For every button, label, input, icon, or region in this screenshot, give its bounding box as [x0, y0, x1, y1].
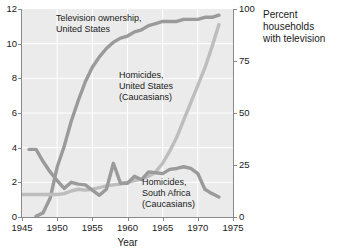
y-axis-right-tick	[234, 217, 237, 218]
annotation-south-africa-homicides: Homicides, South Africa (Caucasians)	[142, 177, 195, 210]
y-axis-right-title-line2: with television	[263, 33, 345, 45]
y-axis-right-tick-label: 100	[239, 4, 261, 14]
x-axis-tick	[198, 218, 199, 221]
y-axis-left-tick-label: 12	[0, 4, 17, 14]
plot-area	[22, 9, 233, 217]
y-axis-right-tick	[234, 113, 237, 114]
x-axis-tick-label: 1960	[111, 223, 145, 233]
x-axis-tick-label: 1945	[5, 223, 39, 233]
y-axis-left-tick-label: 8	[0, 73, 17, 83]
y-axis-left-tick	[18, 78, 21, 79]
x-axis-tick-label: 1975	[216, 223, 250, 233]
y-axis-right-title-line1: Percent households	[263, 9, 345, 33]
x-axis-tick	[128, 218, 129, 221]
x-axis-tick	[163, 218, 164, 221]
y-axis-left-tick-label: 10	[0, 39, 17, 49]
y-axis-right-tick-label: 0	[239, 212, 261, 222]
x-axis-tick-label: 1955	[75, 223, 109, 233]
y-axis-left-tick-label: 4	[0, 143, 17, 153]
y-axis-right-tick	[234, 165, 237, 166]
x-axis-tick-label: 1970	[181, 223, 215, 233]
x-axis-tick-label: 1965	[146, 223, 180, 233]
y-axis-left-tick-label: 0	[0, 212, 17, 222]
y-axis-left-tick	[18, 148, 21, 149]
chart-canvas	[22, 9, 233, 217]
y-axis-right-tick-label: 50	[239, 108, 261, 118]
annotation-us-homicides: Homicides, United States (Caucasians)	[119, 70, 173, 103]
x-axis-tick	[92, 218, 93, 221]
y-axis-right-tick	[234, 61, 237, 62]
x-axis-tick-label: 1950	[40, 223, 74, 233]
x-axis-tick	[22, 218, 23, 221]
y-axis-right-tick-label: 75	[239, 56, 261, 66]
y-axis-left-spine	[21, 9, 22, 218]
y-axis-left-tick	[18, 9, 21, 10]
y-axis-left-tick	[18, 113, 21, 114]
y-axis-right-tick-label: 25	[239, 160, 261, 170]
y-axis-left-tick	[18, 44, 21, 45]
y-axis-left-tick	[18, 217, 21, 218]
x-axis-tick	[57, 218, 58, 221]
chart-figure: 0 2 4 6 8 10 12 0 25 50 75 100 1945 1950…	[0, 0, 345, 251]
y-axis-left-tick	[18, 182, 21, 183]
annotation-television-ownership: Television ownership, United States	[56, 13, 142, 35]
y-axis-right-tick	[234, 9, 237, 10]
x-axis-title: Year	[0, 237, 255, 248]
x-axis-tick	[233, 218, 234, 221]
y-axis-left-tick-label: 2	[0, 177, 17, 187]
y-axis-left-tick-label: 6	[0, 108, 17, 118]
y-axis-right-title: Percent households with television	[263, 9, 345, 45]
